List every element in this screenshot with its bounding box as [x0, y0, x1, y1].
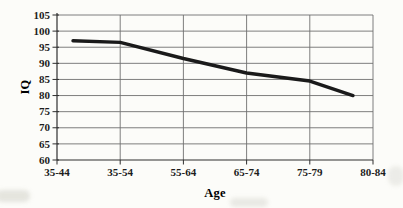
y-tick-label: 100 — [34, 25, 51, 37]
x-tick-label: 75-79 — [297, 166, 323, 178]
y-tick-label: 70 — [39, 121, 51, 133]
scanned-chart-page: 606570758085909510010535-4435-5455-6465-… — [0, 0, 403, 208]
y-axis-title: IQ — [18, 72, 34, 102]
scan-smudge — [388, 166, 403, 186]
y-tick-label: 90 — [39, 57, 51, 69]
scan-smudge — [0, 190, 30, 202]
y-tick-label: 105 — [34, 9, 51, 21]
y-tick-label: 80 — [39, 89, 51, 101]
scan-smudge — [230, 198, 268, 207]
y-tick-label: 75 — [39, 105, 51, 117]
iq-vs-age-line-chart: 606570758085909510010535-4435-5455-6465-… — [0, 0, 403, 208]
x-tick-label: 65-74 — [234, 166, 260, 178]
x-tick-label: 35-44 — [44, 166, 70, 178]
x-tick-label: 35-54 — [107, 166, 133, 178]
iq-data-line — [73, 41, 353, 96]
y-tick-label: 85 — [39, 73, 51, 85]
x-axis-title: Age — [57, 186, 373, 201]
y-tick-label: 60 — [39, 154, 51, 166]
x-tick-label: 80-84 — [360, 166, 386, 178]
y-tick-label: 65 — [39, 138, 51, 150]
y-tick-label: 95 — [39, 41, 51, 53]
x-tick-label: 55-64 — [171, 166, 197, 178]
